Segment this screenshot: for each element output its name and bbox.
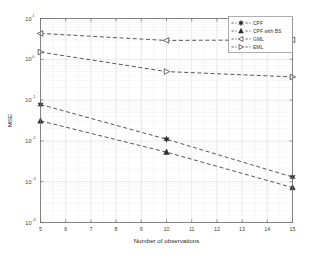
x-tick-label: 8 <box>115 226 118 232</box>
svg-text:-2: -2 <box>32 136 35 140</box>
chart-plot: 56789101112131415 10-410-310-210-1100101… <box>0 0 320 259</box>
x-axis-title: Number of observations <box>134 237 200 244</box>
x-tick-label: 15 <box>290 226 296 232</box>
y-axis-title: MSE <box>6 114 13 127</box>
x-tick-label: 9 <box>140 226 143 232</box>
x-tick-label: 7 <box>89 226 92 232</box>
svg-text:0: 0 <box>32 55 34 59</box>
x-tick-label: 12 <box>214 226 220 232</box>
svg-text:10: 10 <box>25 220 31 226</box>
svg-text:1: 1 <box>32 14 34 18</box>
legend-label: EML <box>253 44 264 50</box>
svg-text:-1: -1 <box>32 95 35 99</box>
figure-canvas: 56789101112131415 10-410-310-210-1100101… <box>0 0 320 259</box>
x-tick-label: 13 <box>239 226 245 232</box>
svg-text:10: 10 <box>25 16 31 22</box>
svg-text:10: 10 <box>25 56 31 62</box>
x-tick-label: 14 <box>264 226 270 232</box>
x-tick-label: 5 <box>39 226 42 232</box>
x-tick-label: 10 <box>164 226 170 232</box>
svg-text:-4: -4 <box>32 218 35 222</box>
x-tick-label: 6 <box>64 226 67 232</box>
legend-label: CPF with BS <box>253 28 282 34</box>
svg-text:10: 10 <box>25 138 31 144</box>
legend-label: CPF <box>253 20 263 26</box>
x-tick-label: 11 <box>189 226 195 232</box>
chart-legend[interactable]: CPFCPF with BSGMLEML <box>229 17 293 53</box>
svg-text:-3: -3 <box>32 177 35 181</box>
legend-label: GML <box>253 36 264 42</box>
svg-text:10: 10 <box>25 97 31 103</box>
svg-text:10: 10 <box>25 179 31 185</box>
